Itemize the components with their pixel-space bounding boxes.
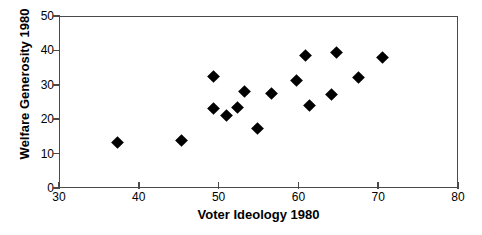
x-axis-tick-mark [298,182,300,189]
y-axis-tick-label: 10 [30,148,54,160]
x-axis-tick-label: 30 [44,191,74,203]
x-axis-tick-label: 40 [124,191,154,203]
y-axis-tick-mark [53,153,60,155]
y-axis-tick-mark [53,15,60,17]
y-axis-tick-label: 30 [30,79,54,91]
x-axis-tick-mark [457,182,459,189]
y-axis-tick-mark [53,118,60,120]
x-axis-title: Voter Ideology 1980 [59,207,458,222]
x-axis-tick-mark [58,182,60,189]
x-axis-tick-mark [218,182,220,189]
x-axis-tick-label: 50 [204,191,234,203]
y-axis-tick-label: 20 [30,113,54,125]
x-axis-tick-label: 70 [363,191,393,203]
y-axis-tick-mark [53,50,60,52]
x-axis-tick-label: 80 [443,191,473,203]
y-axis-tick-label: 40 [30,44,54,56]
y-axis-tick-label: 50 [30,10,54,22]
x-axis-tick-mark [138,182,140,189]
scatter-plot: Welfare Generosity 1980 01020304050 3040… [0,0,482,235]
x-axis-tick-mark [377,182,379,189]
plot-area [59,16,458,188]
x-axis-tick-label: 60 [283,191,313,203]
y-axis-tick-mark [53,84,60,86]
